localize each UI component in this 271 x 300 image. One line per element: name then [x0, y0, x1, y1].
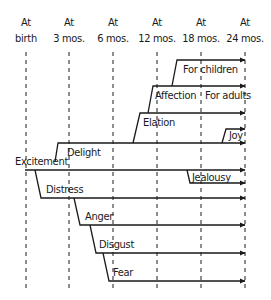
- label-delight: Delight: [67, 147, 101, 159]
- column-header-3mos: At 3 mos.: [53, 16, 85, 45]
- label-distress: Distress: [46, 184, 83, 196]
- header-line1: At: [138, 16, 176, 29]
- column-header-6mos: At 6 mos.: [97, 16, 129, 45]
- header-line2: 3 mos.: [53, 32, 85, 45]
- label-fear: Fear: [113, 267, 133, 279]
- column-header-12mos: At 12 mos.: [138, 16, 176, 45]
- header-line2: birth: [15, 32, 37, 45]
- header-line2: 18 mos.: [182, 32, 220, 45]
- header-line2: 12 mos.: [138, 32, 176, 45]
- label-elation: Elation: [143, 117, 175, 129]
- header-line1: At: [53, 16, 85, 29]
- label-jealousy: Jealousy: [192, 172, 231, 184]
- column-header-18mos: At 18 mos.: [182, 16, 220, 45]
- label-for-children: For children: [183, 64, 238, 76]
- emotion-development-diagram: At birth At 3 mos. At 6 mos. At 12 mos. …: [0, 0, 271, 300]
- column-header-24mos: At 24 mos.: [226, 16, 264, 45]
- header-line1: At: [97, 16, 129, 29]
- label-disgust: Disgust: [99, 239, 134, 251]
- label-excitement: Excitement: [15, 156, 68, 168]
- header-line1: At: [15, 16, 37, 29]
- header-line1: At: [226, 16, 264, 29]
- label-joy: Joy: [229, 130, 243, 142]
- label-affection: Affection: [155, 90, 196, 102]
- label-anger: Anger: [85, 211, 113, 223]
- header-line2: 6 mos.: [97, 32, 129, 45]
- diagram-lines: [0, 0, 271, 300]
- column-header-birth: At birth: [15, 16, 37, 45]
- header-line2: 24 mos.: [226, 32, 264, 45]
- label-for-adults: For adults: [205, 90, 251, 102]
- header-line1: At: [182, 16, 220, 29]
